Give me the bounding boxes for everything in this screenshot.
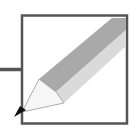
edit-icon-container: [0, 0, 131, 128]
pencil-edit-icon: [0, 0, 131, 128]
